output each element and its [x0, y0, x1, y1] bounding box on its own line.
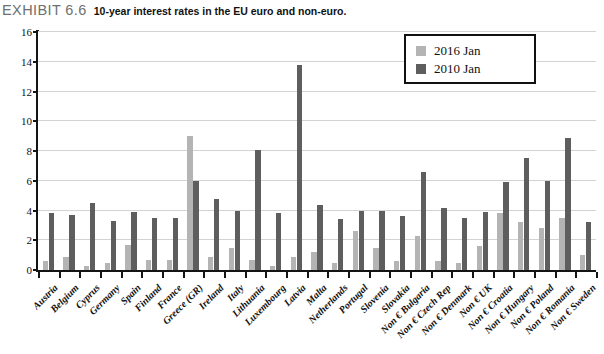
x-tick-mark	[59, 272, 61, 278]
x-axis-label: Latvia	[282, 282, 308, 308]
bar-2016-jan	[291, 257, 296, 270]
x-tick-mark	[327, 272, 329, 278]
bar-2016-jan	[167, 260, 172, 270]
x-tick-mark	[575, 272, 577, 278]
bar-2016-jan	[559, 218, 564, 270]
x-tick-mark	[100, 272, 102, 278]
x-tick-mark	[38, 272, 40, 278]
legend-swatch-2010	[416, 64, 426, 74]
bar-2016-jan	[477, 246, 482, 270]
x-tick-mark	[162, 272, 164, 278]
bar-2010-jan	[400, 216, 405, 270]
bar-2016-jan	[518, 222, 523, 270]
bar-2010-jan	[462, 218, 467, 270]
legend-swatch-2016	[416, 46, 426, 56]
bar-2016-jan	[249, 260, 254, 270]
bar-2016-jan	[456, 263, 461, 270]
bar-2016-jan	[415, 236, 420, 270]
bar-2010-jan	[152, 218, 157, 270]
bar-2016-jan	[229, 248, 234, 270]
x-tick-mark	[307, 272, 309, 278]
bar-2010-jan	[503, 182, 508, 270]
bar-2010-jan	[359, 211, 364, 271]
bar-2010-jan	[276, 213, 281, 270]
bar-2010-jan	[255, 150, 260, 270]
x-tick-mark	[493, 272, 495, 278]
x-tick-mark	[431, 272, 433, 278]
x-tick-mark	[224, 272, 226, 278]
bar-2016-jan	[311, 252, 316, 270]
x-tick-mark	[389, 272, 391, 278]
x-tick-mark	[472, 272, 474, 278]
x-tick-mark	[513, 272, 515, 278]
bar-2010-jan	[235, 211, 240, 271]
x-tick-mark	[596, 272, 598, 278]
x-tick-mark	[286, 272, 288, 278]
bar-2010-jan	[524, 158, 529, 270]
bar-2016-jan	[63, 257, 68, 270]
x-tick-mark	[534, 272, 536, 278]
bar-2016-jan	[208, 257, 213, 270]
x-tick-mark	[245, 272, 247, 278]
bar-2010-jan	[483, 212, 488, 270]
bar-2010-jan	[338, 219, 343, 270]
y-tick-label: 8	[6, 145, 32, 157]
y-tick-label: 6	[6, 175, 32, 187]
x-tick-mark	[451, 272, 453, 278]
bar-2010-jan	[69, 215, 74, 270]
y-tick-label: 0	[6, 264, 32, 276]
bar-2010-jan	[90, 203, 95, 270]
exhibit-label: EXHIBIT 6.6	[2, 2, 87, 18]
bar-2016-jan	[435, 261, 440, 270]
bar-2010-jan	[214, 199, 219, 270]
legend-item-2010: 2010 Jan	[416, 60, 534, 78]
bar-2010-jan	[173, 218, 178, 270]
y-tick-label: 10	[6, 115, 32, 127]
bar-2016-jan	[105, 263, 110, 270]
x-tick-mark	[265, 272, 267, 278]
x-tick-mark	[410, 272, 412, 278]
exhibit-caption: 10-year interest rates in the EU euro an…	[94, 2, 347, 17]
bar-2016-jan	[580, 255, 585, 270]
bar-2010-jan	[565, 138, 570, 270]
bar-2016-jan	[332, 263, 337, 270]
x-tick-mark	[121, 272, 123, 278]
bar-2016-jan	[353, 231, 358, 270]
bar-2010-jan	[441, 208, 446, 270]
bar-2016-jan	[270, 266, 275, 270]
x-tick-mark	[183, 272, 185, 278]
bar-2010-jan	[111, 221, 116, 270]
bar-2010-jan	[317, 205, 322, 270]
x-tick-mark	[79, 272, 81, 278]
x-tick-mark	[141, 272, 143, 278]
bar-2016-jan	[394, 261, 399, 270]
y-tick-label: 4	[6, 205, 32, 217]
bar-2016-jan	[84, 266, 89, 270]
x-tick-mark	[369, 272, 371, 278]
bar-2016-jan	[125, 245, 130, 270]
bar-2016-jan	[43, 261, 48, 270]
legend-label-2016: 2016 Jan	[434, 43, 481, 59]
bar-2010-jan	[586, 222, 591, 270]
bar-2016-jan	[373, 248, 378, 270]
bar-2016-jan	[539, 228, 544, 270]
x-tick-mark	[348, 272, 350, 278]
bar-2010-jan	[379, 211, 384, 271]
exhibit-header: EXHIBIT 6.6 10-year interest rates in th…	[2, 2, 602, 20]
bar-2010-jan	[545, 181, 550, 270]
bar-2010-jan	[193, 181, 198, 270]
chart-legend: 2016 Jan 2010 Jan	[404, 34, 536, 84]
legend-label-2010: 2010 Jan	[434, 61, 481, 77]
x-tick-mark	[203, 272, 205, 278]
bar-2016-jan	[187, 136, 192, 270]
bar-2010-jan	[131, 212, 136, 270]
bar-2016-jan	[497, 213, 502, 270]
x-tick-mark	[555, 272, 557, 278]
y-tick-label: 2	[6, 234, 32, 246]
bar-2010-jan	[49, 213, 54, 270]
legend-item-2016: 2016 Jan	[416, 42, 534, 60]
bar-2016-jan	[146, 260, 151, 270]
bar-chart: 0246810121416 AustriaBelgiumCyprusGerman…	[0, 24, 604, 354]
bar-2010-jan	[421, 172, 426, 270]
